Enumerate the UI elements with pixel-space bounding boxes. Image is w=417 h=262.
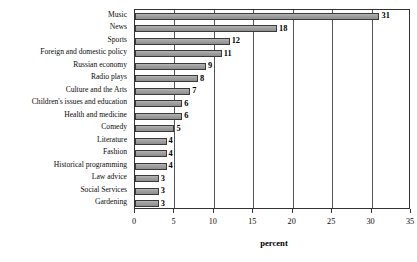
x-axis-tick — [371, 209, 372, 213]
bar-value-label: 3 — [161, 186, 165, 195]
bar-value-label: 11 — [224, 49, 232, 58]
category-label: Health and medicine — [64, 111, 127, 119]
category-label: News — [110, 23, 127, 31]
bar — [135, 63, 206, 70]
bar — [135, 138, 167, 145]
x-axis-tick-label: 25 — [327, 217, 335, 226]
bar-value-label: 4 — [169, 161, 173, 170]
bar — [135, 188, 159, 195]
bar — [135, 13, 379, 20]
bar — [135, 113, 182, 120]
bar — [135, 75, 198, 82]
category-label: Historical programming — [54, 161, 127, 169]
x-axis-tick-label: 15 — [248, 217, 256, 226]
gridline — [293, 10, 294, 208]
bar-value-label: 12 — [232, 36, 240, 45]
bar — [135, 88, 190, 95]
bar-chart: MusicNewsSportsForeign and domestic poli… — [0, 0, 417, 262]
bar-value-label: 7 — [192, 86, 196, 95]
category-label: Foreign and domestic policy — [40, 48, 127, 56]
gridline — [253, 10, 254, 208]
bar-value-label: 4 — [169, 149, 173, 158]
category-label: Children's issues and education — [32, 98, 127, 106]
bar — [135, 50, 222, 57]
x-axis-tick — [213, 209, 214, 213]
x-axis-tick — [410, 209, 411, 213]
category-label: Fashion — [103, 148, 127, 156]
bar — [135, 175, 159, 182]
x-axis-tick — [292, 209, 293, 213]
category-label: Law advice — [92, 173, 127, 181]
x-axis-title-label: percent — [260, 238, 288, 248]
bar-value-label: 31 — [381, 11, 389, 20]
x-axis-tick — [331, 209, 332, 213]
gridline — [332, 10, 333, 208]
category-label: Culture and the Arts — [66, 86, 127, 94]
x-axis-tick-label: 35 — [406, 217, 414, 226]
category-label: Radio plays — [91, 73, 127, 81]
bar — [135, 125, 174, 132]
category-label: Russian economy — [73, 61, 127, 69]
category-axis: MusicNewsSportsForeign and domestic poli… — [0, 9, 130, 209]
bar — [135, 100, 182, 107]
bar — [135, 25, 277, 32]
gridline — [372, 10, 373, 208]
bar-value-label: 4 — [169, 136, 173, 145]
bar-value-label: 3 — [161, 199, 165, 208]
bar-value-label: 8 — [200, 74, 204, 83]
x-axis-tick-label: 30 — [366, 217, 374, 226]
category-label: Sports — [108, 36, 127, 44]
x-axis-tick — [134, 209, 135, 213]
bar — [135, 163, 167, 170]
x-axis-tick-label: 5 — [171, 217, 175, 226]
bar-value-label: 18 — [279, 24, 287, 33]
bar-value-label: 6 — [184, 111, 188, 120]
category-label: Gardening — [95, 198, 127, 206]
bar-value-label: 5 — [176, 124, 180, 133]
bar-value-label: 9 — [208, 61, 212, 70]
x-axis-title: percent — [0, 238, 417, 248]
bar — [135, 38, 230, 45]
bar — [135, 150, 167, 157]
plot-area: 31181211987665444333 — [134, 9, 410, 209]
x-axis-tick-label: 20 — [288, 217, 296, 226]
x-axis-tick — [252, 209, 253, 213]
category-label: Social Services — [80, 186, 127, 194]
bar-value-label: 6 — [184, 99, 188, 108]
category-label: Music — [108, 11, 127, 19]
category-label: Literature — [97, 136, 127, 144]
x-axis-tick — [173, 209, 174, 213]
bar — [135, 200, 159, 207]
x-axis-tick-label: 0 — [132, 217, 136, 226]
category-label: Comedy — [101, 123, 127, 131]
bar-value-label: 3 — [161, 174, 165, 183]
x-axis-tick-label: 10 — [209, 217, 217, 226]
